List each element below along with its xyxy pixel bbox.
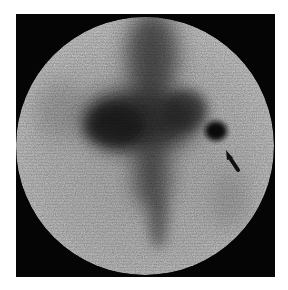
scanline-texture <box>0 0 288 290</box>
scan-image <box>0 0 288 290</box>
